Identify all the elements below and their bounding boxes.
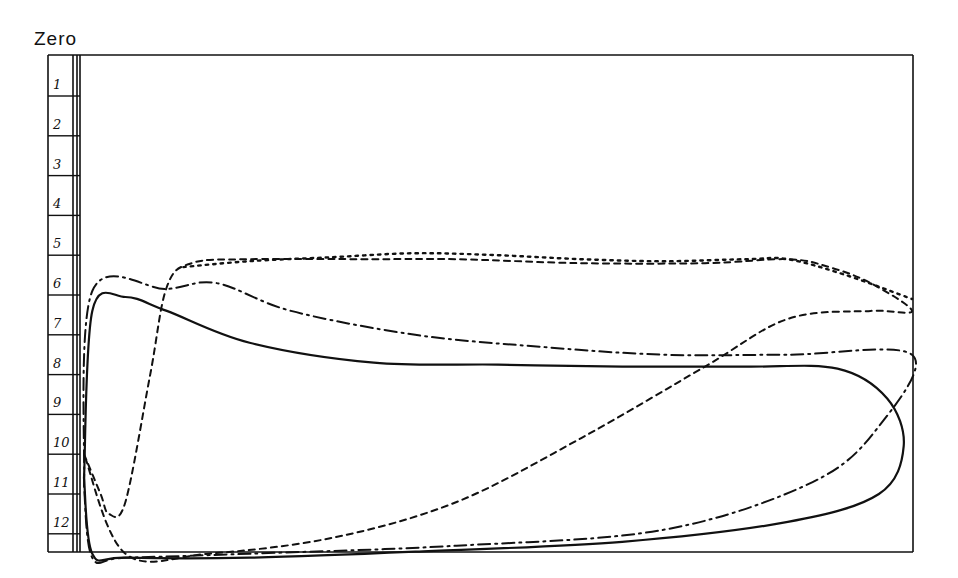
series-dashed-line xyxy=(84,259,912,562)
y-tick-label: 5 xyxy=(53,236,61,251)
y-tick-label: 12 xyxy=(53,515,70,530)
y-tick-label: 6 xyxy=(53,276,61,291)
y-tick-label: 3 xyxy=(53,157,61,172)
y-tick-label: 4 xyxy=(52,196,61,211)
y-tick-label: 10 xyxy=(53,435,70,450)
y-tick-label: 7 xyxy=(53,316,62,331)
y-tick-label: 1 xyxy=(53,77,61,92)
y-tick-label: 2 xyxy=(52,117,61,132)
y-tick-label: 9 xyxy=(53,395,61,410)
chart-frame xyxy=(48,55,913,552)
chart-canvas: 123456789101112 xyxy=(0,0,958,578)
y-axis-tick-labels: 123456789101112 xyxy=(52,77,70,530)
series-dash-dot-line xyxy=(83,276,916,563)
series-solid-line xyxy=(84,293,904,561)
y-tick-label: 11 xyxy=(53,475,70,490)
y-tick-label: 8 xyxy=(53,356,61,371)
series-group xyxy=(83,253,916,563)
